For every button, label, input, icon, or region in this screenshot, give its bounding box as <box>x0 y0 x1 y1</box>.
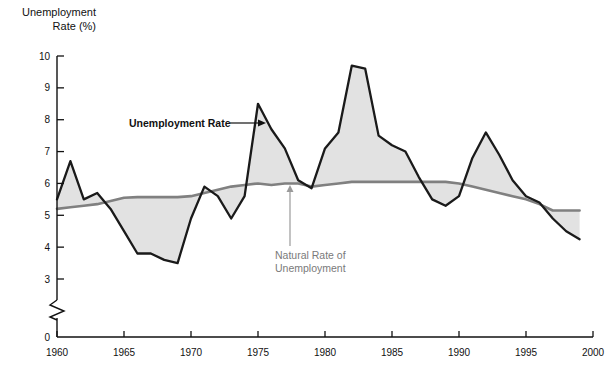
unemployment-rate-chart: Unemployment Rate (%) 0345678910 1960196… <box>0 0 608 372</box>
area-between-series <box>57 66 580 264</box>
y-axis-tick-label: 8 <box>44 114 50 125</box>
axis-break-icon <box>50 300 64 320</box>
y-axis-tick-label: 10 <box>39 51 51 62</box>
annotation-natural-rate-label-line2: Unemployment <box>275 262 346 274</box>
y-axis-title-line1: Unemployment <box>22 6 96 18</box>
x-axis-tick-label: 1990 <box>448 347 471 358</box>
y-axis-tick-label: 0 <box>44 332 50 343</box>
x-axis-tick-label: 1970 <box>180 347 203 358</box>
annotation-natural-rate: Natural Rate of Unemployment <box>275 185 346 274</box>
x-axis-tick-label: 1980 <box>314 347 337 358</box>
x-axis-tick-label: 1995 <box>515 347 538 358</box>
y-axis-tick-label: 5 <box>44 210 50 221</box>
y-axis-tick-label: 4 <box>44 242 50 253</box>
y-axis-tick-label: 7 <box>44 146 50 157</box>
x-axis-tick-label: 1965 <box>113 347 136 358</box>
shaded-gap-region <box>57 66 580 264</box>
x-axis-tick-label: 2000 <box>582 347 605 358</box>
chart-canvas: Unemployment Rate (%) 0345678910 1960196… <box>0 0 608 372</box>
annotation-unemployment-rate: Unemployment Rate <box>129 117 266 129</box>
arrow-up-icon <box>287 185 294 192</box>
y-axis-tick-label: 3 <box>44 274 50 285</box>
annotation-natural-rate-label-line1: Natural Rate of <box>275 249 346 261</box>
x-axis-tick-label: 1985 <box>381 347 404 358</box>
y-axis-tick-label: 6 <box>44 178 50 189</box>
x-axis-tick-label: 1960 <box>46 347 69 358</box>
x-axis-tick-label: 1975 <box>247 347 270 358</box>
y-axis-title-line2: Rate (%) <box>53 20 96 32</box>
x-axis-ticks: 196019651970197519801985199019952000 <box>46 331 605 358</box>
annotation-unemployment-rate-label: Unemployment Rate <box>129 117 231 129</box>
y-axis-tick-label: 9 <box>44 82 50 93</box>
